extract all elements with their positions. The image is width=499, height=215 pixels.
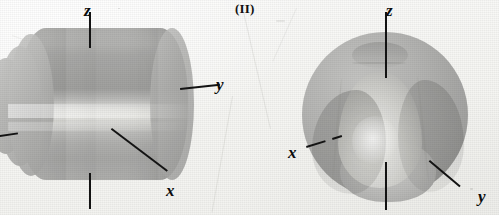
cylinder-highlight-band bbox=[8, 104, 194, 118]
sphere-specular-highlight bbox=[352, 116, 398, 166]
axis-label-x-right: x bbox=[288, 144, 297, 161]
axis-line-z-lower bbox=[89, 173, 91, 209]
sphere-polar-cap bbox=[352, 42, 408, 68]
axis-label-y-left: y bbox=[216, 76, 224, 93]
axis-label-z-right: z bbox=[386, 2, 393, 19]
scan-speck bbox=[118, 8, 120, 9]
right-surface-plot bbox=[290, 20, 499, 215]
axis-line-z bbox=[385, 12, 387, 78]
cylinder-highlight-band bbox=[8, 122, 194, 131]
sphere-seam bbox=[352, 62, 406, 64]
panel-label: (II) bbox=[235, 1, 255, 17]
axis-label-x-left: x bbox=[166, 182, 175, 199]
figure-container: (II) z y x bbox=[0, 0, 499, 215]
left-surface-plot bbox=[0, 18, 210, 203]
axis-label-y-right: y bbox=[478, 188, 486, 205]
axis-line-z-lower bbox=[385, 162, 387, 210]
axis-label-z-left: z bbox=[84, 2, 91, 19]
scan-speck bbox=[276, 20, 285, 22]
